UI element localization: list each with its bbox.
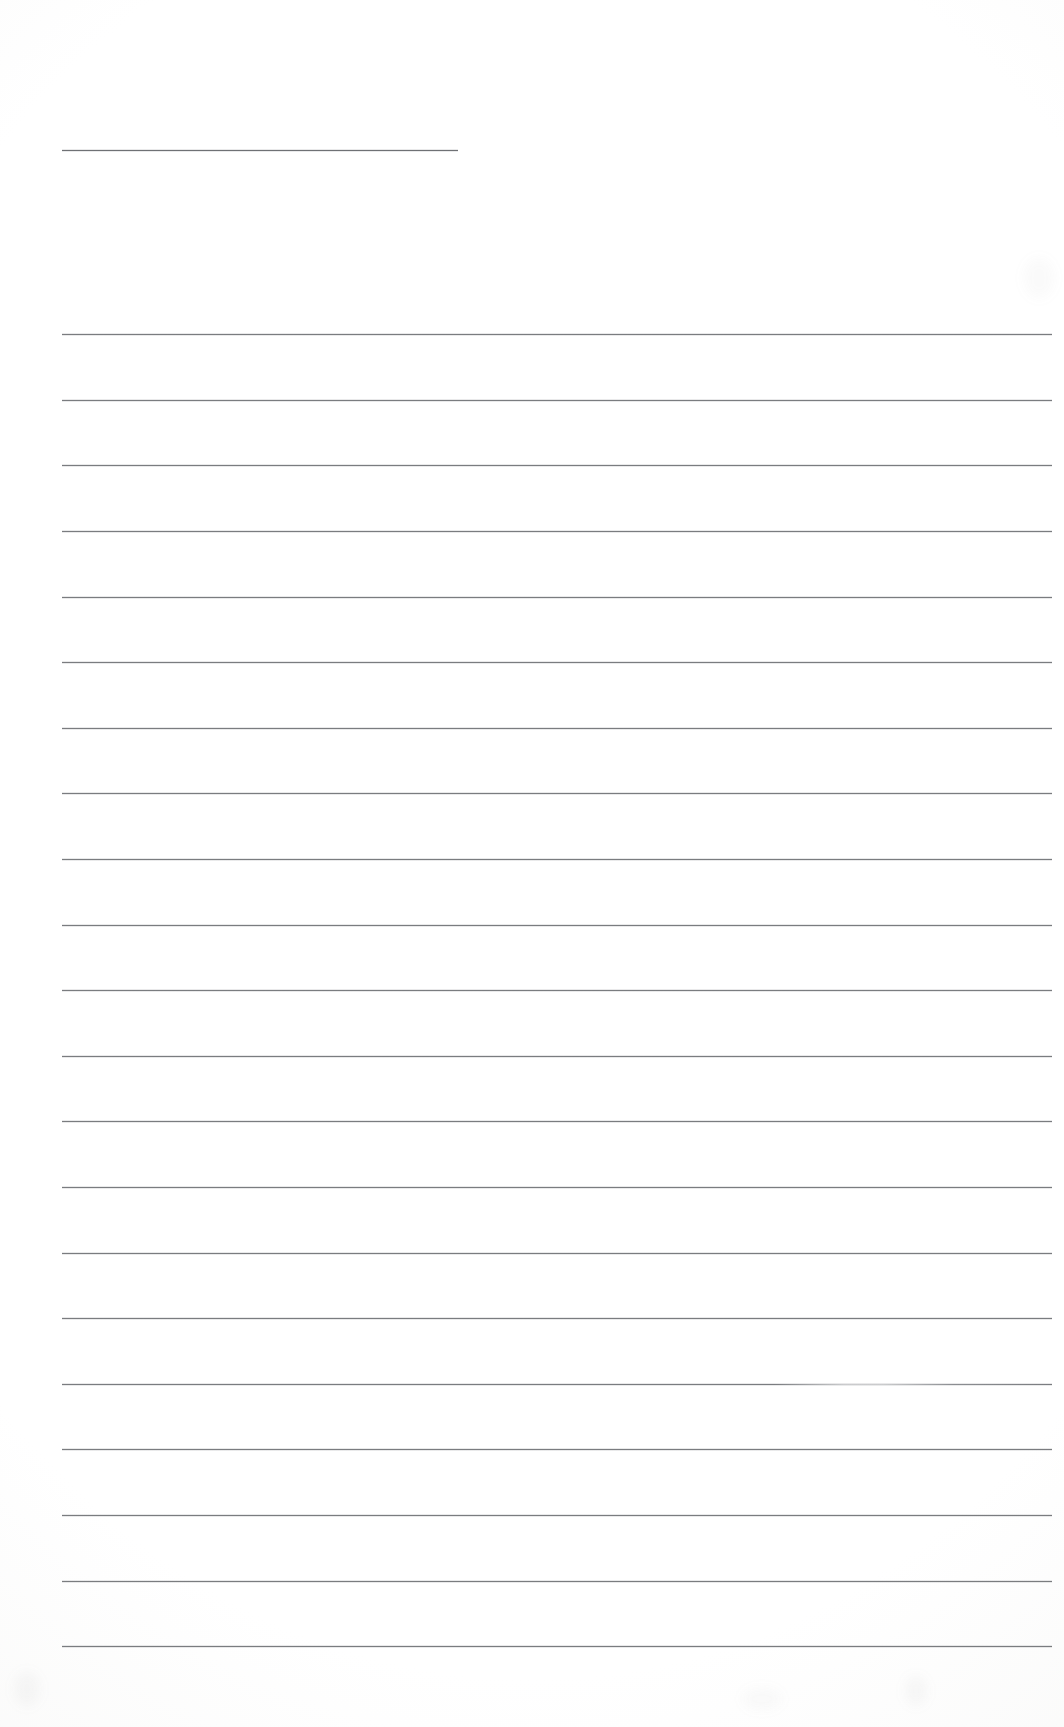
header-rule bbox=[62, 150, 458, 151]
smudge-bottom-left bbox=[14, 1672, 40, 1706]
ruled-line bbox=[62, 1449, 1052, 1450]
ruled-line bbox=[62, 531, 1052, 532]
ruled-line bbox=[62, 465, 1052, 466]
ruled-line bbox=[62, 990, 1052, 991]
ruled-line bbox=[62, 597, 1052, 598]
ruled-line bbox=[62, 334, 1052, 335]
ruled-line bbox=[62, 859, 1052, 860]
ruled-line bbox=[62, 1384, 1052, 1385]
scanned-page bbox=[0, 0, 1064, 1727]
ruled-line bbox=[62, 728, 1052, 729]
ruled-line bbox=[62, 793, 1052, 794]
smudge-bottom-right bbox=[905, 1676, 927, 1706]
ruled-line bbox=[62, 662, 1052, 663]
ruled-line bbox=[62, 1318, 1052, 1319]
ruled-line bbox=[62, 1121, 1052, 1122]
ruled-line bbox=[62, 400, 1052, 401]
ruled-line bbox=[62, 925, 1052, 926]
ruled-line bbox=[62, 1056, 1052, 1057]
ruled-line bbox=[62, 1187, 1052, 1188]
smudge-top-right bbox=[1024, 258, 1054, 298]
scan-grain bbox=[0, 0, 1064, 1727]
smudge-bottom-center bbox=[742, 1688, 782, 1710]
ruled-line bbox=[62, 1646, 1052, 1647]
ruled-line bbox=[62, 1581, 1052, 1582]
paper-background bbox=[0, 0, 1064, 1727]
ruled-line bbox=[62, 1515, 1052, 1516]
ruled-line bbox=[62, 1253, 1052, 1254]
